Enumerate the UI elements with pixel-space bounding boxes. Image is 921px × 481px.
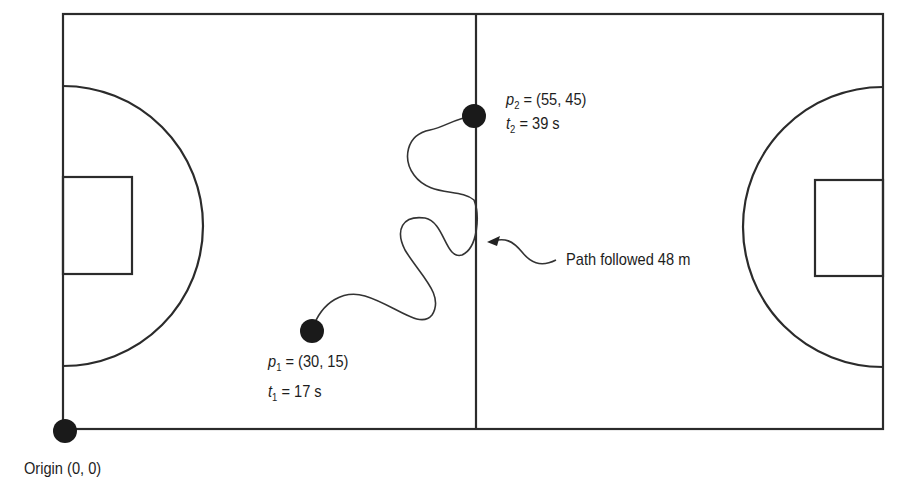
court-diagram [0, 0, 921, 481]
p2-position-label: p2 = (55, 45) [506, 90, 586, 111]
followed-path [312, 116, 477, 330]
t2-subscript: 2 [510, 123, 515, 135]
p2-equals: = [523, 90, 536, 109]
p1-equals: = [285, 352, 298, 371]
path-label: Path followed 48 m [566, 250, 690, 270]
right-key-box [815, 180, 883, 276]
right-three-point-arc [743, 87, 883, 367]
p1-coords: (30, 15) [298, 352, 348, 371]
arrowhead-icon [487, 236, 500, 246]
t2-equals: = [519, 114, 532, 133]
point-p2-marker [462, 104, 486, 128]
p2-subscript: 2 [514, 99, 519, 111]
p2-coords: (55, 45) [536, 90, 586, 109]
p1-time-label: t1 = 17 s [268, 382, 322, 403]
court-boundary [63, 14, 883, 429]
p1-position-label: p1 = (30, 15) [268, 352, 348, 373]
pointer-arrow-curve [493, 240, 556, 264]
left-key-box [63, 177, 132, 274]
p1-subscript: 1 [276, 361, 281, 373]
origin-marker [53, 419, 77, 443]
point-p1-marker [300, 319, 324, 343]
t1-subscript: 1 [272, 391, 277, 403]
origin-label: Origin (0, 0) [24, 459, 101, 479]
t2-value: 39 s [532, 114, 560, 133]
t1-equals: = [281, 382, 294, 401]
p2-time-label: t2 = 39 s [506, 114, 560, 135]
t1-value: 17 s [294, 382, 322, 401]
